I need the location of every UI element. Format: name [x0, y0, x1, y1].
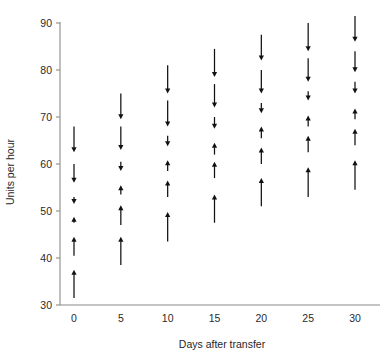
data-arrows: [71, 16, 357, 298]
arrow-head: [71, 270, 76, 275]
arrow-head: [118, 185, 123, 190]
arrow-head: [259, 56, 264, 61]
arrow-up: [118, 185, 123, 194]
arrow-head: [118, 205, 123, 210]
y-axis-ticks: 30405060708090: [40, 17, 60, 311]
arrow-down: [165, 101, 170, 127]
arrow-head: [212, 72, 217, 77]
chart-container: 30405060708090 051015202530 Units per ho…: [0, 0, 391, 354]
arrow-up: [71, 217, 76, 223]
arrow-down: [259, 103, 264, 113]
arrow-plot: 30405060708090 051015202530 Units per ho…: [0, 0, 391, 354]
y-tick-label: 40: [40, 252, 52, 264]
arrow-up: [165, 160, 170, 171]
x-axis-title: Days after transfer: [179, 338, 266, 350]
arrow-up: [118, 237, 123, 265]
arrow-head: [352, 37, 357, 42]
arrow-up: [212, 143, 217, 155]
arrow-down: [212, 49, 217, 77]
arrow-head: [259, 126, 264, 131]
arrow-head: [212, 124, 217, 129]
x-tick-label: 0: [71, 312, 77, 324]
arrow-head: [165, 160, 170, 165]
arrow-head: [306, 136, 311, 141]
arrow-head: [71, 178, 76, 183]
arrow-head: [71, 199, 76, 204]
arrow-head: [352, 109, 357, 114]
arrow-down: [118, 94, 123, 120]
arrow-down: [165, 65, 170, 93]
arrow-down: [118, 162, 123, 171]
arrow-up: [306, 136, 311, 152]
y-tick-label: 60: [40, 158, 52, 170]
arrow-down: [352, 82, 357, 94]
arrow-head: [71, 147, 76, 152]
y-tick-label: 30: [40, 299, 52, 311]
x-tick-label: 30: [349, 312, 361, 324]
arrow-head: [165, 180, 170, 185]
arrow-head: [259, 108, 264, 113]
arrow-head: [165, 121, 170, 126]
arrow-down: [306, 23, 311, 51]
arrow-up: [165, 180, 170, 196]
arrow-up: [352, 160, 357, 190]
arrow-head: [352, 67, 357, 72]
arrow-down: [71, 164, 76, 183]
y-tick-label: 90: [40, 17, 52, 29]
arrow-down: [306, 58, 311, 82]
arrow-up: [212, 195, 217, 223]
arrow-head: [165, 212, 170, 217]
arrow-head: [165, 89, 170, 94]
arrow-up: [259, 178, 264, 206]
arrow-up: [306, 116, 311, 127]
arrow-head: [71, 217, 76, 222]
arrow-head: [71, 237, 76, 242]
arrow-down: [212, 84, 217, 108]
arrow-head: [306, 46, 311, 51]
axes: [60, 22, 380, 305]
arrow-head: [118, 166, 123, 171]
arrow-group: [165, 65, 170, 241]
arrow-head: [352, 89, 357, 94]
arrow-head: [212, 162, 217, 167]
x-tick-label: 20: [255, 312, 267, 324]
arrow-head: [259, 89, 264, 94]
arrow-head: [212, 195, 217, 200]
arrow-up: [165, 212, 170, 242]
arrow-up: [71, 270, 76, 298]
y-axis-title: Units per hour: [4, 139, 16, 205]
arrow-down: [352, 16, 357, 42]
arrow-head: [306, 96, 311, 101]
arrow-head: [259, 148, 264, 153]
arrow-head: [212, 103, 217, 108]
arrow-up: [259, 148, 264, 164]
arrow-down: [71, 197, 76, 204]
arrow-up: [118, 205, 123, 225]
arrow-up: [259, 126, 264, 138]
x-axis-ticks: 051015202530: [71, 312, 361, 324]
arrow-group: [259, 35, 264, 207]
arrow-down: [212, 117, 217, 129]
arrow-group: [71, 126, 76, 298]
arrow-down: [259, 70, 264, 94]
arrow-down: [306, 91, 311, 100]
arrow-head: [118, 114, 123, 119]
arrow-down: [259, 35, 264, 61]
arrow-group: [118, 94, 123, 266]
y-tick-label: 50: [40, 205, 52, 217]
y-tick-label: 80: [40, 64, 52, 76]
arrow-head: [306, 167, 311, 172]
arrow-down: [118, 126, 123, 149]
arrow-head: [352, 129, 357, 134]
axis-spine: [60, 22, 380, 305]
arrow-head: [118, 237, 123, 242]
arrow-up: [352, 129, 357, 145]
x-tick-label: 25: [302, 312, 314, 324]
arrow-up: [71, 237, 76, 256]
x-tick-label: 5: [118, 312, 124, 324]
arrow-up: [352, 109, 357, 120]
x-tick-label: 15: [209, 312, 221, 324]
arrow-group: [212, 49, 217, 223]
arrow-up: [212, 162, 217, 178]
arrow-head: [212, 143, 217, 148]
